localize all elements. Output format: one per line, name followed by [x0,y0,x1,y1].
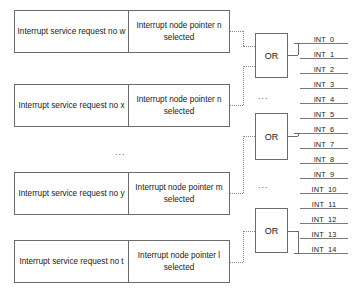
int-line-12 [300,223,348,224]
interrupt-mapping-diagram: Interrupt service request no w Interrupt… [0,0,353,301]
request-box-x-node-label: Interrupt node pointer n selected [129,85,229,126]
int-line-0 [300,43,348,44]
int-line-8 [300,163,348,164]
int-line-3 [300,88,348,89]
wire-box-y-out [230,193,243,194]
int-line-6 [300,133,348,134]
wire-box-t-to-or3 [243,231,255,232]
request-box-y: Interrupt service request no y Interrupt… [14,172,230,215]
or-gate-2: OR [255,113,288,160]
request-box-t-service-label: Interrupt service request no t [15,241,129,282]
request-box-x: Interrupt service request no x Interrupt… [14,84,230,127]
or-gate-2-label: OR [265,132,279,142]
wire-or3-drop [298,231,299,253]
wire-box-w-to-or1 [243,46,255,47]
request-box-y-service-label: Interrupt service request no y [15,173,129,214]
ellipsis-between-boxes: ... [115,148,126,157]
or-gate-1: OR [255,33,288,78]
int-line-4 [300,103,348,104]
request-box-w-node-label: Interrupt node pointer n selected [129,11,229,52]
wire-or2-out [288,136,298,137]
request-box-x-service-label: Interrupt service request no x [15,85,129,126]
wire-box-t-out [230,262,243,263]
ellipsis-between-or-gate-2-and-3: ... [258,181,269,190]
wire-or1-rise [298,43,299,55]
request-box-w-service-label: Interrupt service request no w [15,11,129,52]
request-box-t-node-label: Interrupt node pointer l selected [129,241,229,282]
int-line-14 [300,253,348,254]
or-gate-3-label: OR [265,226,279,236]
wire-box-y-rise [243,136,244,193]
int-line-10 [300,193,348,194]
request-box-w: Interrupt service request no w Interrupt… [14,10,230,53]
wire-or1-out [288,55,298,56]
or-gate-1-label: OR [265,51,279,61]
wire-box-w-out [230,31,243,32]
int-line-7 [300,148,348,149]
int-line-9 [300,178,348,179]
wire-box-w-drop [243,31,244,46]
wire-or3-out [288,231,298,232]
request-box-y-node-label: Interrupt node pointer m selected [129,173,229,214]
wire-box-x-out [230,105,243,106]
int-line-11 [300,208,348,209]
int-line-13 [300,238,348,239]
wire-box-y-to-or2 [243,136,255,137]
request-box-t: Interrupt service request no t Interrupt… [14,240,230,283]
wire-box-x-rise [243,66,244,105]
wire-box-x-to-or1 [243,66,255,67]
int-line-5 [300,118,348,119]
or-gate-3: OR [255,208,288,253]
int-line-1 [300,58,348,59]
int-line-2 [300,73,348,74]
wire-box-t-rise [243,231,244,262]
ellipsis-between-or-gate-1-and-2: ... [258,92,269,101]
